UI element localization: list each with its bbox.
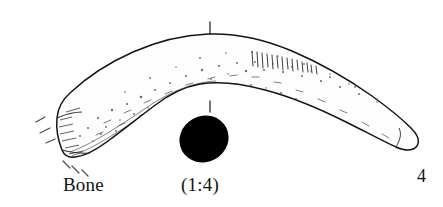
material-label: Bone <box>63 175 104 194</box>
figure-number-label: 4 <box>417 167 426 185</box>
figure-root: Bone (1:4) 4 <box>0 0 443 207</box>
scale-label: (1:4) <box>181 175 219 194</box>
